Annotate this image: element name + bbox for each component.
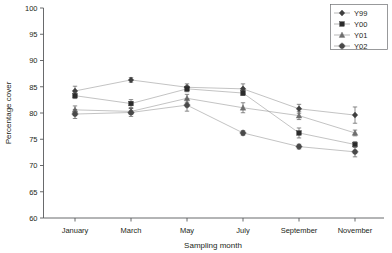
- legend-label: Y01: [354, 31, 367, 40]
- y-tick-label: 90: [29, 56, 37, 65]
- y-tick-label: 85: [29, 83, 37, 92]
- x-tick-label: March: [121, 226, 142, 235]
- x-tick-label: July: [236, 226, 250, 235]
- y-tick-label: 75: [29, 135, 37, 144]
- percentage-cover-line-chart: 1009590858075706560 Percentage cover Jan…: [0, 0, 392, 253]
- data-point-marker: [353, 142, 358, 147]
- y-tick-label: 70: [29, 161, 37, 170]
- data-point-marker: [297, 131, 302, 136]
- x-tick-label: May: [180, 226, 194, 235]
- y-tick-label: 65: [29, 188, 37, 197]
- legend-label: Y00: [354, 20, 367, 29]
- chart-legend: Y99Y00Y01Y02: [331, 5, 388, 51]
- data-point-marker: [340, 22, 345, 27]
- data-point-marker: [241, 91, 246, 96]
- y-tick-label: 60: [29, 214, 37, 223]
- x-tick-label: November: [338, 226, 373, 235]
- x-axis-title: Sampling month: [184, 241, 242, 250]
- y-axis-title: Percentage cover: [4, 81, 13, 144]
- data-point-marker: [185, 87, 190, 92]
- data-point-marker: [73, 93, 78, 98]
- y-tick-label: 100: [25, 4, 38, 13]
- x-tick-label: January: [62, 226, 89, 235]
- data-point-marker: [129, 101, 134, 106]
- legend-label: Y02: [354, 42, 367, 51]
- legend-label: Y99: [354, 9, 367, 18]
- y-tick-label: 80: [29, 109, 37, 118]
- x-tick-label: September: [281, 226, 318, 235]
- y-tick-label: 95: [29, 30, 37, 39]
